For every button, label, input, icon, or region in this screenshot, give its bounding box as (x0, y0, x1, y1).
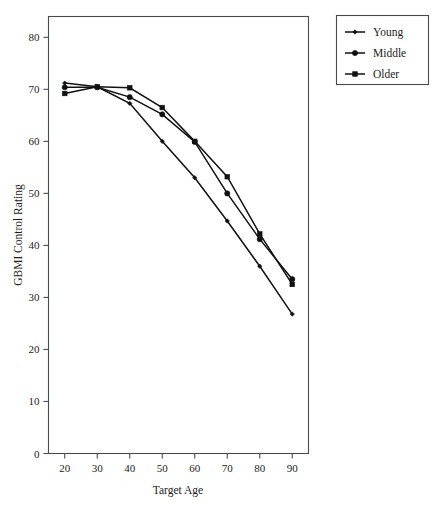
series-middle (62, 85, 295, 282)
x-tick-label: 70 (222, 462, 234, 474)
line-chart: 01020304050607080 2030405060708090 Targe… (0, 0, 434, 505)
legend-label-older: Older (373, 68, 399, 80)
x-tick-label: 30 (92, 462, 104, 474)
series-young (63, 81, 295, 316)
legend-label-young: Young (373, 26, 403, 39)
data-point-middle (160, 112, 165, 117)
x-tick-label: 60 (189, 462, 201, 474)
plot-frame (49, 17, 309, 454)
series-line-older (65, 87, 293, 285)
y-tick-label: 10 (29, 395, 41, 407)
data-point-middle (127, 95, 132, 100)
y-tick-label: 30 (29, 291, 41, 303)
data-point-older (192, 139, 197, 144)
chart-legend: YoungMiddleOlder (337, 16, 429, 85)
y-tick-label: 20 (29, 343, 41, 355)
x-tick-label: 20 (59, 462, 71, 474)
data-point-older (62, 91, 67, 96)
y-tick-label: 40 (29, 239, 41, 251)
legend-label-middle: Middle (373, 47, 406, 59)
x-axis-title: Target Age (153, 484, 203, 497)
y-axis-title: GBMI Control Rating (12, 184, 25, 286)
data-point-older (257, 232, 262, 237)
x-tick-label: 80 (254, 462, 266, 474)
series-older (62, 84, 294, 286)
data-point-older (290, 282, 295, 287)
legend-marker-middle (352, 50, 357, 55)
data-point-middle (225, 191, 230, 196)
series-line-middle (65, 87, 293, 279)
y-axis: 01020304050607080 (29, 31, 49, 459)
x-tick-label: 90 (287, 462, 299, 474)
data-point-older (225, 174, 230, 179)
y-tick-label: 80 (29, 31, 41, 43)
y-tick-label: 0 (34, 448, 40, 460)
data-point-middle (62, 85, 67, 90)
data-point-older (95, 84, 100, 89)
legend-marker-older (353, 72, 358, 77)
series-line-young (65, 83, 293, 314)
y-tick-label: 50 (29, 187, 41, 199)
y-tick-label: 70 (29, 83, 41, 95)
x-axis: 2030405060708090 (59, 454, 298, 474)
data-point-older (160, 105, 165, 110)
y-tick-label: 60 (29, 135, 41, 147)
figure-container: 01020304050607080 2030405060708090 Targe… (0, 0, 434, 505)
x-tick-label: 50 (157, 462, 169, 474)
series-group (62, 81, 295, 316)
data-point-older (127, 85, 132, 90)
x-tick-label: 40 (124, 462, 136, 474)
